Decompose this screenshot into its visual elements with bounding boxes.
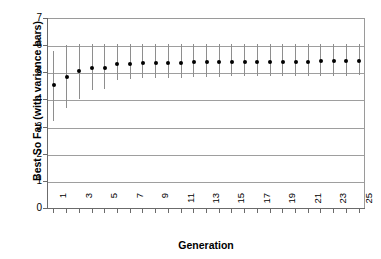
data-point-marker [230,60,234,64]
y-tick-mark [43,181,48,182]
y-axis-tick-labels: 01234567 [26,0,42,259]
gridline-horizontal [47,155,364,156]
x-tick-mark [117,209,118,213]
x-tick-mark [53,209,54,213]
x-tick-mark [359,209,360,213]
x-tick-mark [104,209,105,213]
x-tick-mark [168,209,169,213]
x-tick-mark [244,209,245,213]
data-point-marker [65,75,69,79]
data-point-marker [141,61,145,65]
x-tick-mark [92,209,93,213]
y-tick-label: 1 [28,176,42,186]
x-tick-mark [181,209,182,213]
x-tick-mark [308,209,309,213]
x-tick-mark [320,209,321,213]
x-axis-title: Generation [47,239,365,251]
data-point-marker [243,60,247,64]
y-tick-mark [43,154,48,155]
data-point-marker [103,66,107,70]
x-tick-mark [295,209,296,213]
data-point-marker [306,60,310,64]
data-point-marker [192,60,196,64]
x-tick-mark [219,209,220,213]
data-point-marker [294,60,298,64]
data-point-marker [205,60,209,64]
data-point-marker [154,61,158,65]
x-tick-mark [346,209,347,213]
data-point-marker [281,60,285,64]
gridline-horizontal [47,128,364,129]
y-tick-mark [43,72,48,73]
x-tick-mark [155,209,156,213]
data-point-marker [52,83,56,87]
y-tick-mark [43,18,48,19]
y-tick-mark [43,208,48,209]
data-point-marker [179,61,183,65]
x-tick-mark [282,209,283,213]
y-tick-mark [43,99,48,100]
x-tick-mark [66,209,67,213]
y-tick-label: 2 [28,149,42,159]
x-tick-mark [231,209,232,213]
x-tick-mark [193,209,194,213]
x-tick-mark [270,209,271,213]
x-tick-mark [257,209,258,213]
x-tick-mark [130,209,131,213]
x-tick-mark [79,209,80,213]
y-tick-label: 4 [28,94,42,104]
x-tick-mark [333,209,334,213]
y-tick-label: 3 [28,122,42,132]
y-tick-label: 0 [28,203,42,213]
y-tick-label: 7 [28,13,42,23]
gridline-horizontal [47,100,364,101]
gridline-horizontal [47,182,364,183]
x-tick-label: 25 [363,193,374,215]
y-tick-label: 6 [28,40,42,50]
x-tick-mark [206,209,207,213]
x-tick-mark [142,209,143,213]
chart-container: Best So Far (with variance bars) 0123456… [0,0,381,259]
y-tick-mark [43,127,48,128]
y-tick-mark [43,45,48,46]
y-tick-label: 5 [28,67,42,77]
